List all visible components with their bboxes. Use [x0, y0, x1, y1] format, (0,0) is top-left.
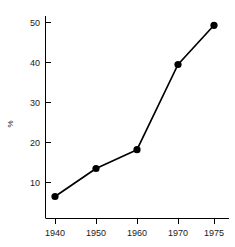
chart-canvas: 50 40 30 20 10 % 1940 1950 1960 1970 197… [0, 0, 235, 247]
data-point-1960 [133, 146, 140, 153]
y-tick-label-50: 50 [30, 18, 40, 28]
x-tick-label-1950: 1950 [86, 228, 106, 238]
x-tick-label-1975: 1975 [204, 228, 224, 238]
x-tick-label-1960: 1960 [127, 228, 147, 238]
x-tick-label-1940: 1940 [45, 228, 65, 238]
y-tick-label-40: 40 [30, 58, 40, 68]
data-series-line [55, 25, 214, 196]
x-tick-label-1970: 1970 [168, 228, 188, 238]
data-point-1975 [210, 22, 217, 29]
y-axis-label: % [6, 120, 15, 127]
y-tick-label-30: 30 [30, 98, 40, 108]
y-axis-ticks [46, 23, 52, 183]
data-point-1940 [51, 193, 58, 200]
data-point-1950 [92, 165, 99, 172]
data-point-1970 [174, 61, 181, 68]
line-chart: 50 40 30 20 10 % 1940 1950 1960 1970 197… [0, 0, 235, 247]
y-tick-label-20: 20 [30, 138, 40, 148]
x-axis-ticks [56, 219, 215, 225]
y-tick-label-10: 10 [30, 178, 40, 188]
